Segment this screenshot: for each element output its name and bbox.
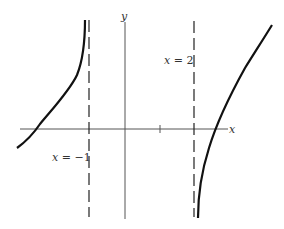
asymptote-label-2: x = 2 <box>164 54 193 67</box>
x-axis-label: x <box>229 123 236 136</box>
curve-right-branch <box>198 25 272 218</box>
asymptote-label-neg1: x = −1 <box>52 151 91 164</box>
y-axis-label: y <box>120 10 128 23</box>
graph-canvas: x y x = −1 x = 2 <box>0 0 284 229</box>
